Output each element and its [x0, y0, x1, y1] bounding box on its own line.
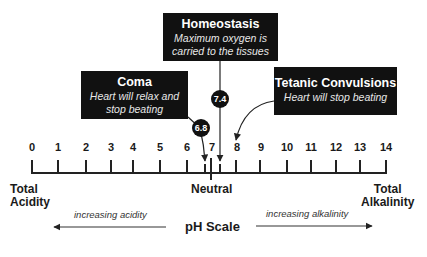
tick-9: 9	[251, 141, 271, 153]
tetanic-callout: Tetanic Convulsions Heart will stop beat…	[274, 67, 397, 115]
coma-callout: Coma Heart will relax and stop beating	[81, 71, 188, 119]
homeostasis-line2: carried to the tissues	[163, 45, 278, 58]
tick-13: 13	[350, 141, 370, 153]
tick-0: 0	[22, 141, 42, 153]
total-acidity-label: Total Acidity	[10, 183, 50, 209]
badge-7-4: 7.4	[211, 90, 229, 108]
tetanic-title: Tetanic Convulsions	[274, 76, 397, 91]
total-alkalinity-label: Total Alkalinity	[361, 183, 414, 209]
tick-14: 14	[376, 141, 396, 153]
tick-8: 8	[227, 141, 247, 153]
tick-12: 12	[326, 141, 346, 153]
increasing-alkalinity-label: increasing alkalinity	[266, 208, 348, 219]
tick-11: 11	[301, 141, 321, 153]
badge-6-8: 6.8	[192, 119, 210, 137]
tick-3: 3	[101, 141, 121, 153]
homeostasis-title: Homeostasis	[163, 17, 278, 32]
tetanic-pointer	[236, 101, 274, 140]
tick-4: 4	[123, 141, 143, 153]
coma-title: Coma	[81, 75, 188, 90]
tick-6: 6	[177, 141, 197, 153]
tick-10: 10	[277, 141, 297, 153]
tick-1: 1	[48, 141, 68, 153]
neutral-label: Neutral	[191, 183, 232, 196]
increasing-acidity-label: increasing acidity	[74, 209, 147, 220]
coma-line2: stop beating	[81, 103, 188, 116]
tick-2: 2	[76, 141, 96, 153]
ph-scale-title: pH Scale	[185, 220, 240, 233]
tick-7: 7	[202, 141, 222, 153]
coma-line1: Heart will relax and	[81, 90, 188, 103]
homeostasis-callout: Homeostasis Maximum oxygen is carried to…	[163, 13, 278, 61]
homeostasis-line1: Maximum oxygen is	[163, 32, 278, 45]
tick-5: 5	[150, 141, 170, 153]
axis-ticks	[32, 158, 386, 180]
tetanic-line1: Heart will stop beating	[274, 91, 397, 104]
